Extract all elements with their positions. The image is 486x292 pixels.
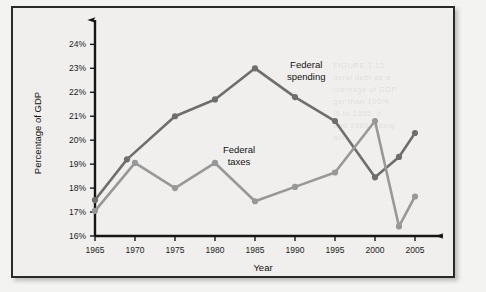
line-chart-plot: 16%17%18%19%20%21%22%23%24% 196519701975… [13, 8, 453, 276]
data-point [372, 118, 378, 124]
series-label-line: taxes [228, 156, 251, 167]
data-point [332, 169, 338, 175]
x-tick-label: 1965 [86, 245, 105, 255]
data-point [396, 223, 402, 229]
series-line [95, 68, 415, 200]
series-label-1: Federalspending [287, 59, 326, 81]
y-tick-label: 21% [69, 111, 86, 121]
data-point [396, 154, 402, 160]
y-tick-label: 17% [69, 207, 86, 217]
data-point [332, 118, 338, 124]
y-tick-label: 22% [69, 87, 86, 97]
data-point [292, 184, 298, 190]
data-point [124, 156, 130, 162]
data-point [92, 197, 98, 203]
series-line [95, 121, 415, 226]
x-axis-title: Year [253, 262, 272, 273]
x-tick-label: 1990 [286, 245, 305, 255]
data-point [92, 208, 98, 214]
data-point [252, 65, 258, 71]
data-point [172, 185, 178, 191]
y-tick-label: 23% [69, 63, 86, 73]
y-axis-title: Percentage of GDP [32, 92, 43, 174]
data-point [412, 193, 418, 199]
x-tick-label: 1995 [326, 245, 345, 255]
y-tick-label: 19% [69, 159, 86, 169]
series-label-line: Federal [290, 59, 322, 70]
x-axis-tick-labels: 196519701975198019851990199520002005 [86, 245, 425, 255]
data-point [372, 174, 378, 180]
x-tick-label: 1985 [246, 245, 265, 255]
y-tick-label: 18% [69, 183, 86, 193]
y-tick-label: 20% [69, 135, 86, 145]
data-point [132, 160, 138, 166]
x-tick-label: 2005 [406, 245, 425, 255]
series-label-line: Federal [223, 144, 255, 155]
data-point [172, 113, 178, 119]
x-tick-label: 1970 [126, 245, 145, 255]
y-axis-tick-labels: 16%17%18%19%20%21%22%23%24% [69, 39, 86, 241]
data-point [212, 160, 218, 166]
y-tick-label: 16% [69, 231, 86, 241]
series-label-2: Federaltaxes [223, 144, 255, 167]
data-point [252, 198, 258, 204]
x-tick-label: 1980 [206, 245, 225, 255]
figure-root: FIGURE 1.12 deral debt as a rcentage of … [0, 0, 486, 292]
data-point [412, 130, 418, 136]
y-tick-label: 24% [69, 39, 86, 49]
x-tick-label: 2000 [366, 245, 385, 255]
figure-box: FIGURE 1.12 deral debt as a rcentage of … [11, 6, 455, 278]
series-2 [92, 118, 418, 230]
x-tick-label: 1975 [166, 245, 185, 255]
data-point [292, 94, 298, 100]
data-point [212, 96, 218, 102]
series-1 [92, 65, 418, 203]
series-inline-labels: FederalspendingFederaltaxes [223, 59, 326, 167]
series-label-line: spending [287, 71, 326, 82]
